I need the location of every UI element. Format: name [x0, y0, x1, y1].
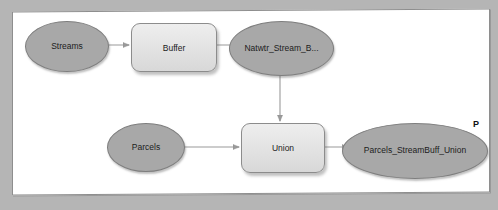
node-buffer-tool[interactable]: Buffer: [131, 23, 217, 72]
node-streams-label: Streams: [51, 42, 83, 51]
node-buffer-label: Buffer: [163, 43, 186, 53]
node-parcels-label: Parcels: [132, 143, 160, 152]
node-parcels-streambuff-union[interactable]: Parcels_StreamBuff_Union: [342, 123, 488, 179]
node-parcels[interactable]: Parcels: [107, 123, 185, 172]
node-natwtr-stream-buffer[interactable]: Natwtr_Stream_B...: [229, 21, 334, 76]
node-union-label: Union: [272, 143, 294, 153]
screenshot-canvas: Streams Buffer Natwtr_Stream_B... Parcel…: [0, 0, 498, 210]
node-union-tool[interactable]: Union: [241, 123, 325, 173]
node-streams[interactable]: Streams: [25, 21, 109, 72]
model-diagram-panel[interactable]: Streams Buffer Natwtr_Stream_B... Parcel…: [12, 9, 490, 196]
corner-mark-letter: P: [473, 119, 479, 129]
model-diagram-canvas[interactable]: Streams Buffer Natwtr_Stream_B... Parcel…: [13, 11, 489, 193]
node-natwtr-stream-buffer-label: Natwtr_Stream_B...: [244, 44, 318, 53]
node-parcels-streambuff-union-label: Parcels_StreamBuff_Union: [364, 146, 466, 155]
